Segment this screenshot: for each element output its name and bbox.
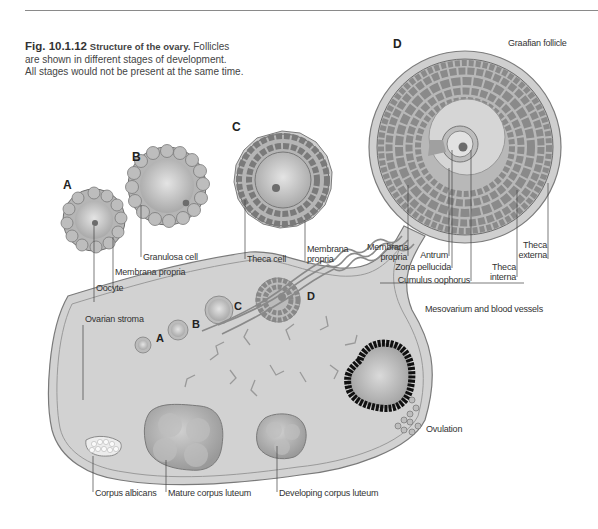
ovary-stage-d: D	[307, 290, 315, 302]
follicle-d-graafian	[369, 51, 561, 243]
developing-corpus-luteum	[257, 414, 307, 459]
label-corpus-albicans: Corpus albicans	[95, 488, 157, 498]
follicle-c	[234, 131, 332, 228]
label-text: interna	[490, 272, 516, 282]
mature-corpus-luteum	[144, 404, 222, 470]
label-text: propria	[307, 254, 334, 264]
stage-label-b: B	[132, 150, 141, 164]
label-theca-interna: Theca interna	[484, 262, 516, 282]
ovary-stage-b: B	[192, 318, 200, 330]
label-theca-cell: Theca cell	[247, 254, 286, 264]
label-granulosa-cell: Granulosa cell	[143, 252, 198, 262]
label-mature-corpus-luteum: Mature corpus luteum	[168, 488, 251, 498]
label-text: Theca	[492, 262, 516, 272]
label-graafian-follicle: Graafian follicle	[508, 38, 567, 48]
label-ovulation: Ovulation	[426, 424, 462, 434]
stage-label-a: A	[63, 178, 72, 192]
label-text: Theca	[523, 240, 547, 250]
ovary-body	[49, 226, 433, 485]
label-ovarian-stroma: Ovarian stroma	[85, 314, 144, 324]
label-membrana-propria-c: Membrana propria	[307, 244, 348, 264]
label-membrana-propria-a: Membrana propria	[115, 267, 185, 277]
label-mesovarium: Mesovarium and blood vessels	[425, 304, 543, 314]
label-text: Membrana	[307, 244, 348, 254]
label-theca-externa: Theca externa	[510, 240, 547, 260]
label-text: externa	[518, 250, 547, 260]
label-zona-pellucida: Zona pellucida	[380, 262, 451, 272]
ovary-stage-a: A	[156, 332, 164, 344]
ovary-stage-c: C	[234, 300, 242, 312]
label-oocyte: Oocyte	[96, 283, 123, 293]
label-developing-corpus-luteum: Developing corpus luteum	[279, 488, 378, 498]
stage-label-d: D	[393, 37, 402, 51]
label-cumulus-oophorus: Cumulus oophorus	[380, 275, 470, 285]
label-antrum: Antrum	[400, 250, 448, 260]
stage-label-c: C	[232, 120, 241, 134]
